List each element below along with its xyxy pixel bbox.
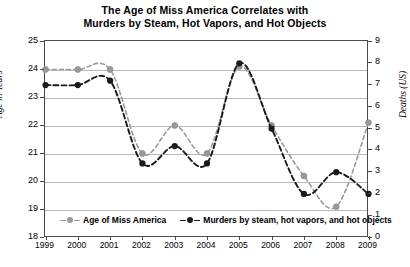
left-axis-tick-label: 18 [12,231,38,241]
left-axis-tick-label: 22 [12,119,38,129]
data-point [301,173,307,179]
right-axis-tick [368,84,372,85]
right-axis-tick-label: 9 [375,35,401,45]
data-point [333,169,339,175]
data-point [107,78,113,84]
left-axis-tick [40,153,44,154]
left-axis-tick-label: 24 [12,63,38,73]
series-2 [42,60,371,197]
data-point [269,126,275,132]
data-point [204,160,210,166]
left-axis-tick [40,209,44,210]
left-axis-tick-label: 25 [12,35,38,45]
series-1 [43,63,372,209]
right-axis-tick [368,149,372,150]
right-axis-tick [368,106,372,107]
series-line [46,63,369,195]
legend-marker-icon [180,216,200,224]
plot-area [44,40,368,237]
right-axis-tick-label: 6 [375,100,401,110]
right-axis-tick-label: 4 [375,143,401,153]
legend-item-1[interactable]: Age of Miss America [60,215,166,225]
data-point [140,151,146,157]
right-axis-tick [368,237,372,238]
right-axis-tick-label: 3 [375,165,401,175]
series-layer [45,41,369,238]
left-axis-tick [40,237,44,238]
data-point [365,191,371,197]
chart-container: The Age of Miss America Correlates with … [0,0,410,267]
data-point [75,67,81,73]
left-axis-tick-label: 19 [12,203,38,213]
right-axis-tick [368,41,372,42]
right-axis-tick-label: 2 [375,187,401,197]
data-point [107,67,113,73]
right-axis-tick [368,193,372,194]
data-point [42,82,48,88]
left-axis-tick [40,181,44,182]
legend-item-2[interactable]: Murders by steam, hot vapors, and hot ob… [180,215,391,225]
left-axis-tick [40,125,44,126]
legend-label: Murders by steam, hot vapors, and hot ob… [203,215,391,225]
data-point [301,191,307,197]
right-axis-tick [368,171,372,172]
left-axis-tick-label: 20 [12,175,38,185]
data-point [43,67,49,73]
left-axis-tick [40,41,44,42]
x-axis-tick-label: 2009 [348,240,388,250]
left-axis-tick-label: 21 [12,147,38,157]
data-point [204,151,210,157]
right-axis-tick-label: 0 [375,231,401,241]
data-point [333,204,339,210]
data-point [172,123,178,129]
right-axis-tick [368,62,372,63]
right-axis-tick-label: 7 [375,78,401,88]
left-axis-tick [40,69,44,70]
right-axis-tick-label: 5 [375,122,401,132]
legend-label: Age of Miss America [83,215,166,225]
chart-title: The Age of Miss America Correlates with … [0,4,410,30]
data-point [139,160,145,166]
data-point [75,82,81,88]
left-axis-tick-label: 23 [12,91,38,101]
data-point [172,143,178,149]
data-point [236,60,242,66]
left-axis-title: Age in Years [0,70,4,118]
right-axis-tick [368,128,372,129]
data-point [366,120,372,126]
left-axis-tick [40,97,44,98]
chart-title-line-2: Murders by Steam, Hot Vapors, and Hot Ob… [0,17,410,30]
right-axis-tick-label: 8 [375,56,401,66]
legend-marker-icon [60,216,80,224]
chart-title-line-1: The Age of Miss America Correlates with [0,4,410,17]
legend: Age of Miss AmericaMurders by steam, hot… [60,215,392,225]
